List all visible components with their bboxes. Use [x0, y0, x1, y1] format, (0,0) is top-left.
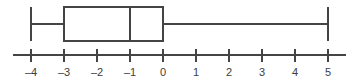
number-line-axis: –4–3–2–1012345 [13, 49, 346, 78]
axis-tick-label: 0 [160, 66, 166, 78]
axis-tick-label: 5 [325, 66, 331, 78]
axis-tick-label: 4 [292, 66, 298, 78]
axis-tick-label: 1 [193, 66, 199, 78]
box-plot-canvas: –4–3–2–1012345 [0, 0, 346, 82]
interquartile-box [64, 7, 163, 41]
axis-tick-label: 2 [226, 66, 232, 78]
axis-tick-label: –3 [58, 66, 70, 78]
box-plot-figure: –4–3–2–1012345 [0, 0, 346, 82]
axis-tick-label: –2 [91, 66, 103, 78]
axis-label-group: –4–3–2–1012345 [25, 66, 331, 78]
axis-tick-label: 3 [259, 66, 265, 78]
axis-tick-label: –4 [25, 66, 37, 78]
boxplot-series [31, 7, 328, 41]
axis-tick-label: –1 [124, 66, 136, 78]
